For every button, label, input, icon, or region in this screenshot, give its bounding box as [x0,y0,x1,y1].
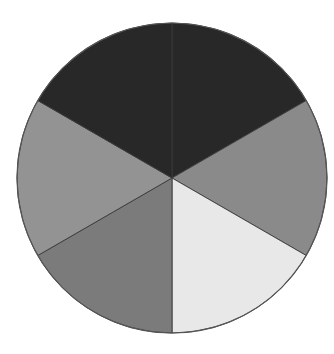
pie-chart [0,0,334,354]
pie-chart-canvas [0,0,334,354]
pie-slices [17,23,327,333]
